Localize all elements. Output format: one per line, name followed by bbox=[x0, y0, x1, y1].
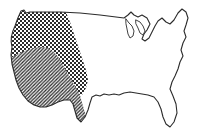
shaded-regions-group bbox=[0, 0, 205, 138]
map-figure bbox=[0, 0, 205, 138]
great-lakes-detail bbox=[126, 19, 134, 38]
united-states-map bbox=[0, 0, 205, 138]
lake-michigan-bay bbox=[136, 20, 145, 35]
